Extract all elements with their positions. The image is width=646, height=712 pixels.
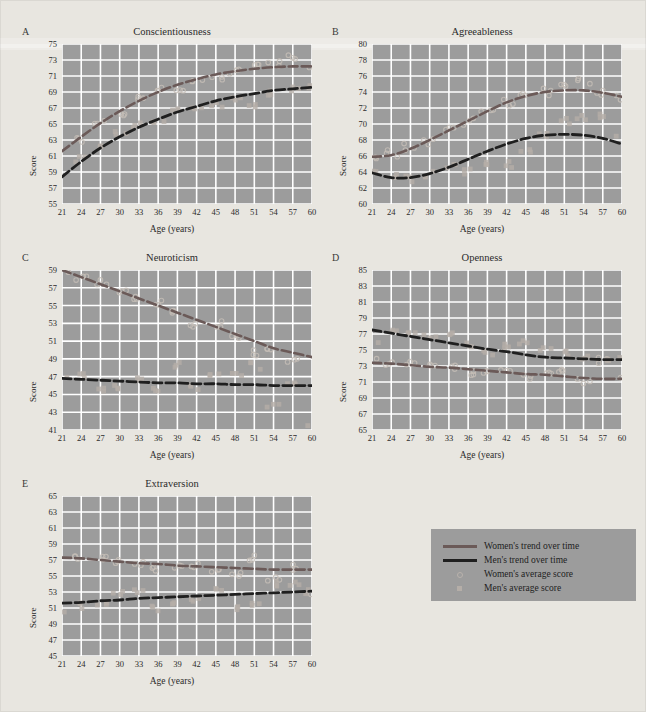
x-tick-label: 30 — [425, 207, 434, 217]
panel-title-d: Openness — [332, 252, 632, 263]
plot-area-c: 4143454749515355575921242730333639424548… — [62, 270, 312, 430]
x-tick-label: 48 — [231, 433, 240, 443]
x-tick-label: 45 — [212, 207, 221, 217]
x-tick-label: 42 — [502, 207, 511, 217]
x-tick-label: 48 — [541, 433, 550, 443]
x-tick-label: 60 — [308, 433, 317, 443]
x-axis-label-c: Age (years) — [22, 450, 322, 460]
x-tick-label: 27 — [96, 659, 105, 669]
y-tick-label: 47 — [33, 635, 57, 645]
x-tick-label: 48 — [231, 659, 240, 669]
plot-area-b: 6062646668707274767880212427303336394245… — [372, 44, 622, 204]
chart-svg — [372, 44, 622, 204]
x-tick-label: 30 — [115, 659, 124, 669]
x-tick-label: 57 — [289, 433, 298, 443]
x-tick-label: 30 — [115, 433, 124, 443]
x-tick-label: 33 — [135, 659, 144, 669]
y-tick-label: 83 — [343, 281, 367, 291]
y-tick-label: 59 — [33, 167, 57, 177]
y-tick-label: 85 — [343, 265, 367, 275]
panel-neuroticism: C Neuroticism Score Age (years) 41434547… — [22, 252, 322, 467]
x-tick-label: 54 — [269, 659, 278, 669]
x-tick-label: 24 — [77, 659, 86, 669]
x-tick-label: 42 — [192, 207, 201, 217]
y-tick-label: 55 — [33, 199, 57, 209]
x-tick-label: 45 — [522, 207, 531, 217]
x-axis-label-a: Age (years) — [22, 224, 322, 234]
y-tick-label: 70 — [343, 119, 367, 129]
x-tick-label: 36 — [154, 207, 163, 217]
y-tick-label: 62 — [343, 183, 367, 193]
panel-agreeableness: B Agreeableness Score Age (years) 606264… — [332, 26, 632, 241]
x-tick-label: 54 — [579, 207, 588, 217]
x-tick-label: 21 — [58, 659, 67, 669]
gridlines — [372, 44, 622, 204]
y-tick-label: 63 — [33, 507, 57, 517]
y-tick-label: 72 — [343, 103, 367, 113]
x-tick-label: 27 — [406, 207, 415, 217]
panel-conscientiousness: A Conscientiousness Score Age (years) 55… — [22, 26, 322, 241]
y-tick-label: 57 — [33, 183, 57, 193]
y-tick-label: 55 — [33, 571, 57, 581]
x-tick-label: 24 — [77, 207, 86, 217]
x-tick-label: 33 — [445, 207, 454, 217]
y-tick-label: 73 — [343, 361, 367, 371]
plot-area-e: 4547495153555759616365212427303336394245… — [62, 496, 312, 656]
men-trend-line — [62, 378, 312, 385]
y-tick-label: 60 — [343, 199, 367, 209]
x-tick-label: 51 — [560, 207, 569, 217]
x-tick-label: 24 — [387, 207, 396, 217]
x-tick-label: 39 — [483, 433, 492, 443]
x-tick-label: 21 — [368, 207, 377, 217]
chart-svg — [62, 496, 312, 656]
x-tick-label: 39 — [173, 207, 182, 217]
y-tick-label: 45 — [33, 389, 57, 399]
y-tick-label: 67 — [33, 103, 57, 113]
y-tick-label: 51 — [33, 603, 57, 613]
y-tick-label: 41 — [33, 425, 57, 435]
x-tick-label: 48 — [541, 207, 550, 217]
x-tick-label: 33 — [135, 433, 144, 443]
y-tick-label: 59 — [33, 265, 57, 275]
y-tick-label: 69 — [33, 87, 57, 97]
x-axis-label-d: Age (years) — [332, 450, 632, 460]
y-tick-label: 57 — [33, 283, 57, 293]
y-tick-label: 65 — [343, 425, 367, 435]
women-trend-line — [62, 270, 312, 357]
y-tick-label: 49 — [33, 619, 57, 629]
plot-area-d: 6567697173757779818385212427303336394245… — [372, 270, 622, 430]
x-tick-label: 54 — [579, 433, 588, 443]
figure-sheet: A Conscientiousness Score Age (years) 55… — [0, 0, 646, 712]
y-tick-label: 63 — [33, 135, 57, 145]
x-tick-label: 36 — [154, 433, 163, 443]
panel-title-c: Neuroticism — [22, 252, 322, 263]
x-tick-label: 36 — [464, 207, 473, 217]
x-tick-label: 30 — [115, 207, 124, 217]
legend-label-men-trend: Men's trend over time — [484, 555, 567, 565]
plot-area-a: 5557596163656769717375212427303336394245… — [62, 44, 312, 204]
x-tick-label: 21 — [58, 207, 67, 217]
x-tick-label: 24 — [387, 433, 396, 443]
x-tick-label: 39 — [173, 659, 182, 669]
y-tick-label: 43 — [33, 407, 57, 417]
y-tick-label: 61 — [33, 151, 57, 161]
y-tick-label: 64 — [343, 167, 367, 177]
x-tick-label: 57 — [289, 207, 298, 217]
legend-label-women-trend: Women's trend over time — [484, 541, 579, 551]
chart-svg — [372, 270, 622, 430]
x-tick-label: 48 — [231, 207, 240, 217]
panel-openness: D Openness Score Age (years) 65676971737… — [332, 252, 632, 467]
legend-item-women-trend: Women's trend over time — [443, 541, 579, 551]
x-tick-label: 33 — [445, 433, 454, 443]
legend-item-men-trend: Men's trend over time — [443, 555, 567, 565]
y-tick-label: 59 — [33, 539, 57, 549]
x-tick-label: 51 — [250, 659, 259, 669]
y-tick-label: 45 — [33, 651, 57, 661]
y-tick-label: 75 — [343, 345, 367, 355]
y-tick-label: 77 — [343, 329, 367, 339]
x-tick-label: 45 — [212, 433, 221, 443]
y-tick-label: 49 — [33, 354, 57, 364]
x-tick-label: 36 — [154, 659, 163, 669]
x-tick-label: 54 — [269, 433, 278, 443]
x-tick-label: 57 — [599, 207, 608, 217]
